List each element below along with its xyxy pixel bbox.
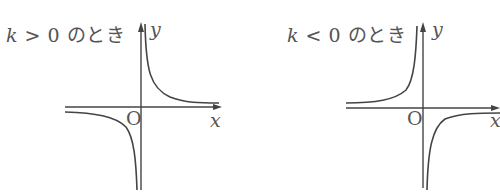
origin-label: O [126,107,142,129]
y-axis-label: y [431,18,443,40]
x-axis-label: x [210,109,221,131]
y-axis-label: y [149,18,161,40]
y-axis-arrow-icon [420,22,426,32]
hyperbola-branch-q2 [346,26,417,103]
hyperbola-plot-negative: O x y [250,0,500,193]
y-axis-arrow-icon [138,22,144,32]
graph-k-positive: k > 0 のとき O x y [0,0,250,193]
origin-label: O [407,107,423,129]
hyperbola-plot-positive: O x y [0,0,250,193]
graph-k-negative: k < 0 のとき O x y [250,0,500,193]
x-axis-label: x [490,109,500,131]
